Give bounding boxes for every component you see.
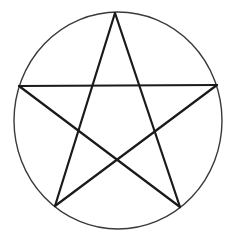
pentagram-star <box>19 13 217 207</box>
diagram-canvas: Pentagram inscribed in a circle <box>0 0 235 241</box>
star-edge-left-to-right <box>19 85 217 86</box>
pentagram-diagram <box>0 0 235 241</box>
star-edge-top-to-bottom-right <box>115 13 180 207</box>
outer-circle <box>14 12 222 229</box>
star-edge-left-to-bottom-right <box>19 86 180 207</box>
star-edge-right-to-bottom-left <box>55 85 217 206</box>
star-edge-top-to-bottom-left <box>55 13 115 206</box>
